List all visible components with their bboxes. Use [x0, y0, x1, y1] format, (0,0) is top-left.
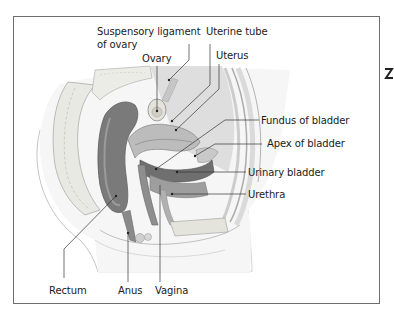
label-fundus-of-bladder: Fundus of bladder: [261, 115, 349, 126]
label-uterine-tube: Uterine tube: [206, 26, 268, 37]
label-uterus: Uterus: [216, 50, 248, 61]
label-apex-of-bladder: Apex of bladder: [267, 138, 345, 149]
partial-glyph-icon: [383, 66, 394, 80]
label-urethra: Urethra: [248, 189, 285, 200]
label-suspensory-ligament-line2: of ovary: [97, 39, 137, 50]
pelvis-illustration: [0, 0, 394, 312]
label-suspensory-ligament-line1: Suspensory ligament: [97, 26, 201, 37]
label-rectum: Rectum: [49, 285, 87, 296]
label-anus: Anus: [118, 285, 142, 296]
label-urinary-bladder: Urinary bladder: [248, 167, 325, 178]
label-vagina: Vagina: [155, 285, 188, 296]
label-ovary: Ovary: [142, 53, 171, 64]
